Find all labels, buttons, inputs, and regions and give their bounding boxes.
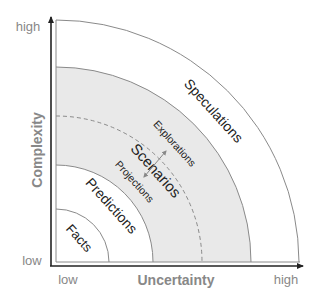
y-axis-title: Complexity xyxy=(29,112,45,188)
y-axis-high-label: high xyxy=(16,19,41,34)
x-axis-high-label: high xyxy=(274,272,299,287)
zone-label-facts: Facts xyxy=(63,221,96,255)
y-axis-low-label: low xyxy=(22,253,42,268)
x-axis-low-label: low xyxy=(58,272,78,287)
x-axis-title: Uncertainty xyxy=(137,272,214,288)
uncertainty-complexity-diagram: high low Complexity low high Uncertainty… xyxy=(0,0,320,296)
